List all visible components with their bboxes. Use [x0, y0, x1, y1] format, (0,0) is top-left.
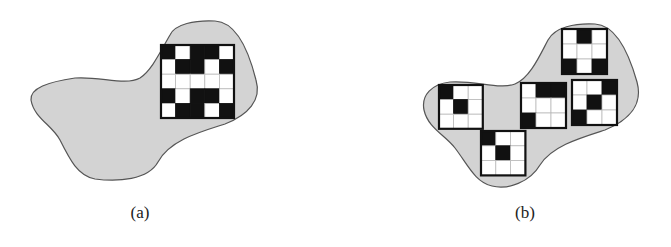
grid-cell-black	[439, 85, 454, 100]
grid-cell-black	[219, 103, 234, 118]
grid-cell-black	[577, 29, 592, 44]
grid-cell-white	[562, 29, 577, 44]
grid-cell-white	[511, 131, 526, 146]
pixel-grid	[521, 83, 566, 128]
pixel-grid	[562, 29, 607, 74]
grid-cell-black	[521, 113, 536, 128]
grid-cell-black	[602, 80, 617, 95]
grid-cell-white	[454, 85, 469, 100]
grid-cell-white	[496, 161, 511, 176]
pixel-grid	[161, 45, 234, 118]
panel-a-caption: (a)	[131, 203, 150, 223]
grid-cell-black	[161, 45, 176, 60]
grid-cell-black	[205, 89, 220, 104]
grid-cell-white	[176, 89, 191, 104]
grid-cell-white	[439, 100, 454, 115]
grid-cell-black	[176, 103, 191, 118]
grid-cell-white	[521, 83, 536, 98]
grid-cell-black	[481, 131, 496, 146]
grid-cell-black	[551, 83, 566, 98]
grid-cell-white	[468, 100, 483, 115]
grid-cell-white	[536, 113, 551, 128]
grid-cell-black	[190, 103, 205, 118]
grid-cell-white	[468, 114, 483, 129]
grid-cell-black	[205, 45, 220, 60]
grid-cell-white	[572, 95, 587, 110]
grid-cell-white	[205, 60, 220, 75]
grid-cell-white	[176, 74, 191, 89]
grid-cell-white	[551, 113, 566, 128]
pixel-grid	[481, 131, 525, 175]
grid-cell-white	[161, 60, 176, 75]
grid-cell-white	[161, 74, 176, 89]
grid-cell-black	[176, 60, 191, 75]
pixel-grid	[439, 85, 483, 129]
grid-cell-white	[602, 95, 617, 110]
grid-cell-black	[536, 83, 551, 98]
grid-cell-white	[454, 114, 469, 129]
grid-cell-white	[511, 146, 526, 161]
grid-cell-white	[592, 29, 607, 44]
grid-cell-white	[587, 110, 602, 125]
grid-cell-black	[454, 100, 469, 115]
grid-cell-white	[190, 74, 205, 89]
grid-cell-white	[536, 98, 551, 113]
grid-cell-black	[496, 146, 511, 161]
grid-cell-white	[161, 103, 176, 118]
grid-cell-black	[562, 59, 577, 74]
grid-cell-white	[481, 161, 496, 176]
figure-canvas	[0, 0, 671, 247]
grid-cell-white	[205, 103, 220, 118]
grid-cell-white	[551, 98, 566, 113]
grid-cell-white	[602, 110, 617, 125]
panel-a	[31, 21, 257, 180]
grid-cell-white	[219, 89, 234, 104]
grid-cell-black	[190, 60, 205, 75]
grid-cell-white	[219, 74, 234, 89]
grid-cell-white	[577, 44, 592, 59]
grid-cell-white	[562, 44, 577, 59]
grid-cell-black	[161, 89, 176, 104]
grid-cell-white	[496, 131, 511, 146]
panel-b	[424, 24, 639, 187]
grid-cell-white	[176, 45, 191, 60]
grid-cell-white	[572, 80, 587, 95]
grid-cell-white	[511, 161, 526, 176]
grid-cell-white	[205, 74, 220, 89]
grid-cell-white	[592, 44, 607, 59]
grid-cell-black	[190, 89, 205, 104]
grid-cell-white	[481, 146, 496, 161]
grid-cell-white	[219, 45, 234, 60]
grid-cell-black	[587, 95, 602, 110]
grid-cell-black	[592, 59, 607, 74]
grid-cell-white	[468, 85, 483, 100]
grid-cell-white	[521, 98, 536, 113]
grid-cell-black	[572, 110, 587, 125]
grid-cell-white	[439, 114, 454, 129]
grid-cell-black	[219, 60, 234, 75]
grid-cell-white	[577, 59, 592, 74]
panel-b-caption: (b)	[515, 203, 535, 223]
pixel-grid	[572, 80, 617, 125]
grid-cell-white	[587, 80, 602, 95]
grid-cell-black	[190, 45, 205, 60]
